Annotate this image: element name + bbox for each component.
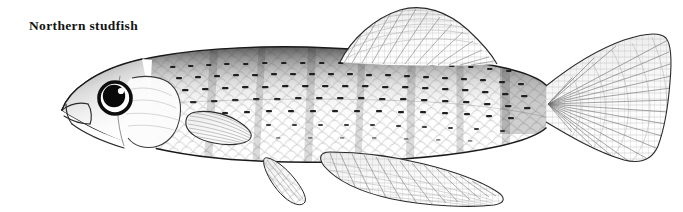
fish-illustration bbox=[0, 0, 683, 212]
caudal-fin bbox=[540, 30, 680, 170]
dorsal-fin bbox=[336, 4, 502, 70]
eye-highlight bbox=[118, 88, 124, 94]
eye bbox=[98, 81, 133, 116]
illustration-plate: Northern studfish bbox=[0, 0, 683, 212]
